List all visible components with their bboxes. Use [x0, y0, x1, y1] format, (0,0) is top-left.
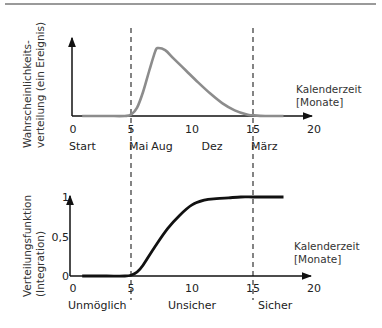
- bottom-x-tick-labels: 05101520: [70, 282, 322, 295]
- month-label-4: März: [251, 140, 278, 153]
- top-x-axis-label-unit: [Monate]: [296, 96, 343, 108]
- bottom-x-tick-5: 5: [128, 282, 135, 295]
- bottom-x-tick-10: 10: [185, 282, 199, 295]
- bottom-x-tick-0: 0: [70, 282, 77, 295]
- bottom-x-tick-15: 15: [246, 282, 260, 295]
- bottom-y-tick-1: 1: [62, 191, 69, 204]
- chart-canvas: 05101520 StartMaiAugDezMärz Kalenderzeit…: [0, 0, 382, 328]
- month-label-0: Start: [69, 140, 97, 153]
- top-x-tick-5: 5: [128, 123, 135, 136]
- bottom-y-axis-label-line2: (Integration): [34, 231, 46, 297]
- top-x-tick-10: 10: [185, 123, 199, 136]
- region-label-2: Sicher: [258, 299, 293, 312]
- month-label-3: Dez: [201, 140, 222, 153]
- top-chart: 05101520 StartMaiAugDezMärz Kalenderzeit…: [21, 22, 362, 153]
- region-label-0: Unmöglich: [68, 299, 127, 312]
- bottom-y-tick-0-5: 0,5: [52, 231, 70, 244]
- month-label-1: Mai: [129, 140, 148, 153]
- month-label-2: Aug: [151, 140, 172, 153]
- top-y-axis-label-line2: verteilung (ein Ereignis): [34, 22, 46, 148]
- region-label-1: Unsicher: [168, 299, 217, 312]
- bottom-x-tick-20: 20: [307, 282, 321, 295]
- top-y-axis-label: Wahrscheinlichkeits-: [21, 40, 33, 148]
- top-x-tick-labels: 05101520: [70, 123, 322, 136]
- top-x-tick-15: 15: [246, 123, 260, 136]
- region-labels: UnmöglichUnsicherSicher: [68, 299, 293, 312]
- month-labels: StartMaiAugDezMärz: [69, 140, 278, 153]
- bottom-y-tick-0: 0: [62, 270, 69, 283]
- top-x-axis-label: Kalenderzeit: [296, 83, 362, 95]
- top-x-tick-0: 0: [70, 123, 77, 136]
- bottom-x-axis-label-unit: [Monate]: [294, 253, 341, 265]
- bottom-chart: 00,51 05101520 UnmöglichUnsicherSicher K…: [21, 191, 360, 312]
- top-x-tick-20: 20: [307, 123, 321, 136]
- bottom-x-axis-label: Kalenderzeit: [294, 240, 360, 252]
- bottom-y-axis-label: Verteilungsfunktion: [21, 195, 33, 297]
- bottom-y-tick-labels: 00,51: [52, 191, 70, 283]
